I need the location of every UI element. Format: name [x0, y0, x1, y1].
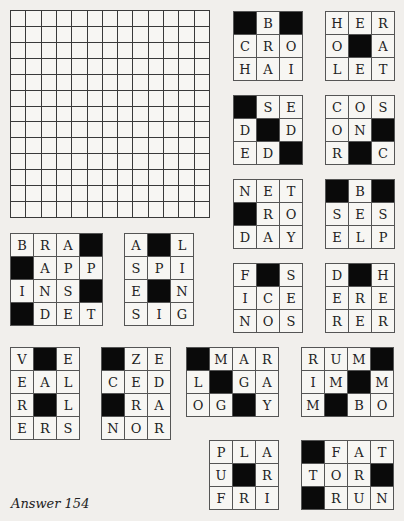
grid-cell[interactable] — [102, 169, 117, 185]
grid-cell[interactable] — [194, 58, 209, 74]
grid-cell[interactable] — [25, 169, 40, 185]
grid-cell[interactable] — [132, 121, 147, 137]
grid-cell[interactable] — [71, 58, 86, 74]
grid-cell[interactable] — [148, 153, 163, 169]
grid-cell[interactable] — [163, 153, 178, 169]
grid-cell[interactable] — [56, 74, 71, 90]
grid-cell[interactable] — [87, 106, 102, 122]
grid-cell[interactable] — [25, 106, 40, 122]
grid-cell[interactable] — [163, 121, 178, 137]
grid-cell[interactable] — [10, 169, 25, 185]
grid-cell[interactable] — [178, 169, 193, 185]
grid-cell[interactable] — [102, 153, 117, 169]
grid-cell[interactable] — [132, 137, 147, 153]
grid-cell[interactable] — [10, 74, 25, 90]
puzzle-piece[interactable]: VEEALRLERS — [10, 347, 80, 440]
grid-cell[interactable] — [102, 90, 117, 106]
grid-cell[interactable] — [163, 90, 178, 106]
grid-cell[interactable] — [178, 153, 193, 169]
grid-cell[interactable] — [117, 10, 132, 26]
grid-cell[interactable] — [194, 106, 209, 122]
grid-cell[interactable] — [163, 74, 178, 90]
grid-cell[interactable] — [87, 137, 102, 153]
grid-cell[interactable] — [178, 137, 193, 153]
grid-cell[interactable] — [132, 185, 147, 201]
grid-cell[interactable] — [41, 153, 56, 169]
grid-cell[interactable] — [10, 58, 25, 74]
grid-cell[interactable] — [132, 90, 147, 106]
puzzle-piece[interactable]: ALSPIENSIG — [124, 233, 194, 326]
grid-cell[interactable] — [25, 137, 40, 153]
grid-cell[interactable] — [56, 58, 71, 74]
grid-cell[interactable] — [87, 42, 102, 58]
grid-cell[interactable] — [178, 106, 193, 122]
grid-cell[interactable] — [41, 201, 56, 217]
grid-cell[interactable] — [163, 185, 178, 201]
grid-cell[interactable] — [71, 42, 86, 58]
grid-cell[interactable] — [102, 106, 117, 122]
grid-cell[interactable] — [194, 153, 209, 169]
grid-cell[interactable] — [194, 26, 209, 42]
grid-cell[interactable] — [117, 74, 132, 90]
grid-cell[interactable] — [163, 58, 178, 74]
grid-cell[interactable] — [56, 201, 71, 217]
grid-cell[interactable] — [41, 74, 56, 90]
grid-cell[interactable] — [102, 26, 117, 42]
grid-cell[interactable] — [71, 169, 86, 185]
grid-cell[interactable] — [87, 153, 102, 169]
grid-cell[interactable] — [117, 42, 132, 58]
grid-cell[interactable] — [25, 90, 40, 106]
grid-cell[interactable] — [56, 26, 71, 42]
grid-cell[interactable] — [87, 201, 102, 217]
grid-cell[interactable] — [87, 169, 102, 185]
grid-cell[interactable] — [148, 169, 163, 185]
grid-cell[interactable] — [10, 201, 25, 217]
grid-cell[interactable] — [178, 185, 193, 201]
puzzle-piece[interactable]: FSICENOS — [233, 263, 303, 333]
grid-cell[interactable] — [132, 58, 147, 74]
grid-cell[interactable] — [10, 185, 25, 201]
grid-cell[interactable] — [132, 42, 147, 58]
grid-cell[interactable] — [163, 26, 178, 42]
grid-cell[interactable] — [71, 74, 86, 90]
grid-cell[interactable] — [163, 169, 178, 185]
grid-cell[interactable] — [163, 201, 178, 217]
grid-cell[interactable] — [148, 74, 163, 90]
grid-cell[interactable] — [87, 121, 102, 137]
grid-cell[interactable] — [132, 74, 147, 90]
grid-cell[interactable] — [71, 90, 86, 106]
grid-cell[interactable] — [71, 26, 86, 42]
grid-cell[interactable] — [41, 90, 56, 106]
grid-cell[interactable] — [41, 106, 56, 122]
grid-cell[interactable] — [148, 90, 163, 106]
grid-cell[interactable] — [71, 185, 86, 201]
grid-cell[interactable] — [117, 106, 132, 122]
grid-cell[interactable] — [102, 42, 117, 58]
grid-cell[interactable] — [25, 58, 40, 74]
grid-cell[interactable] — [132, 10, 147, 26]
grid-cell[interactable] — [194, 42, 209, 58]
puzzle-piece[interactable]: DHERERER — [325, 263, 395, 333]
grid-cell[interactable] — [148, 137, 163, 153]
grid-cell[interactable] — [25, 153, 40, 169]
grid-cell[interactable] — [87, 58, 102, 74]
grid-cell[interactable] — [163, 42, 178, 58]
grid-cell[interactable] — [117, 153, 132, 169]
grid-cell[interactable] — [194, 201, 209, 217]
puzzle-piece[interactable]: SEDDED — [233, 95, 303, 165]
grid-cell[interactable] — [41, 169, 56, 185]
grid-cell[interactable] — [25, 42, 40, 58]
puzzle-piece[interactable]: PLAURFRI — [209, 440, 279, 510]
grid-cell[interactable] — [178, 74, 193, 90]
puzzle-piece[interactable]: HEROALET — [325, 11, 395, 81]
grid-cell[interactable] — [25, 201, 40, 217]
grid-cell[interactable] — [148, 201, 163, 217]
grid-cell[interactable] — [132, 201, 147, 217]
grid-cell[interactable] — [102, 10, 117, 26]
puzzle-piece[interactable]: BCROHAI — [233, 11, 303, 81]
grid-cell[interactable] — [102, 121, 117, 137]
grid-cell[interactable] — [117, 137, 132, 153]
grid-cell[interactable] — [41, 10, 56, 26]
grid-cell[interactable] — [25, 185, 40, 201]
grid-cell[interactable] — [56, 169, 71, 185]
